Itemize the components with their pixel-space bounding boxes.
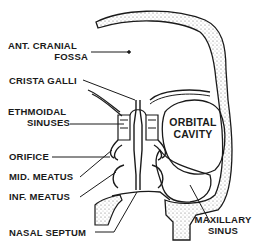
- label-line-2: CAVITY: [165, 128, 221, 140]
- label-mid-meatus: MID. MEATUS: [9, 171, 73, 182]
- left-maxilla: [95, 195, 122, 225]
- nasal-septum: [134, 100, 142, 190]
- label-ant-cranial-fossa: ANT. CRANIAL FOSSA: [8, 40, 88, 62]
- label-line-2: SINUSES: [8, 117, 70, 128]
- label-inf-meatus: INF. MEATUS: [9, 191, 70, 202]
- label-line-1: ORBITAL: [165, 116, 221, 128]
- label-orifice: ORIFICE: [9, 151, 49, 162]
- label-nasal-septum: NASAL SEPTUM: [9, 227, 86, 238]
- label-maxillary-sinus: MAXILLARY SINUS: [190, 214, 256, 236]
- label-line-1: ANT. CRANIAL: [8, 40, 88, 51]
- label-line-1: ETHMOIDAL: [8, 106, 70, 117]
- turbinates-left: [111, 140, 124, 188]
- label-line-1: MAXILLARY: [190, 214, 256, 225]
- label-line-2: SINUS: [190, 225, 256, 236]
- label-ethmoidal-sinuses: ETHMOIDAL SINUSES: [8, 106, 70, 128]
- ethmoid-cells: [88, 90, 158, 140]
- label-line-2: FOSSA: [8, 51, 88, 62]
- label-orbital-cavity: ORBITAL CAVITY: [165, 116, 221, 140]
- maxillary-sinus-outline: [156, 150, 211, 202]
- turbinates-right: [152, 140, 165, 188]
- label-crista-galli: CRISTA GALLI: [9, 75, 77, 86]
